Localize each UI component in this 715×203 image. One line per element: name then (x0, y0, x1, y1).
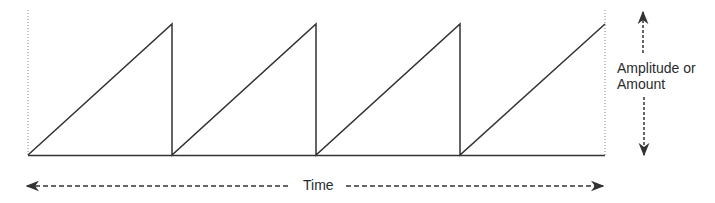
amplitude-label: Amplitude or Amount (617, 60, 696, 92)
time-label: Time (303, 177, 334, 193)
amplitude-label-line1: Amplitude or (617, 60, 696, 76)
amplitude-label-line2: Amount (617, 76, 696, 92)
sawtooth-wave (28, 24, 605, 155)
sawtooth-diagram (0, 0, 715, 203)
